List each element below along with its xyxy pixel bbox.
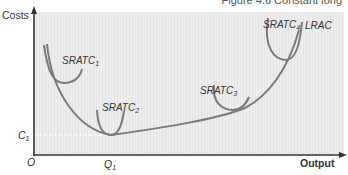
y-axis-arrow-icon — [31, 6, 37, 14]
cost-curves-diagram: Costs Output O C1 Q1 SRATC1 SRATC2 SRATC… — [0, 0, 348, 175]
sratc2-label: SRATC2 — [102, 102, 139, 114]
sratc4-label: SRATC4 — [263, 19, 300, 31]
y-axis-label: Costs — [2, 9, 29, 21]
sratc3-label: SRATC3 — [200, 85, 237, 97]
lrac-label: LRAC — [305, 20, 332, 31]
c1-label: C1 — [18, 129, 30, 142]
origin-label: O — [27, 156, 35, 168]
x-axis-label: Output — [300, 157, 335, 169]
sratc1-label: SRATC1 — [62, 55, 99, 67]
q1-label: Q1 — [104, 158, 116, 171]
